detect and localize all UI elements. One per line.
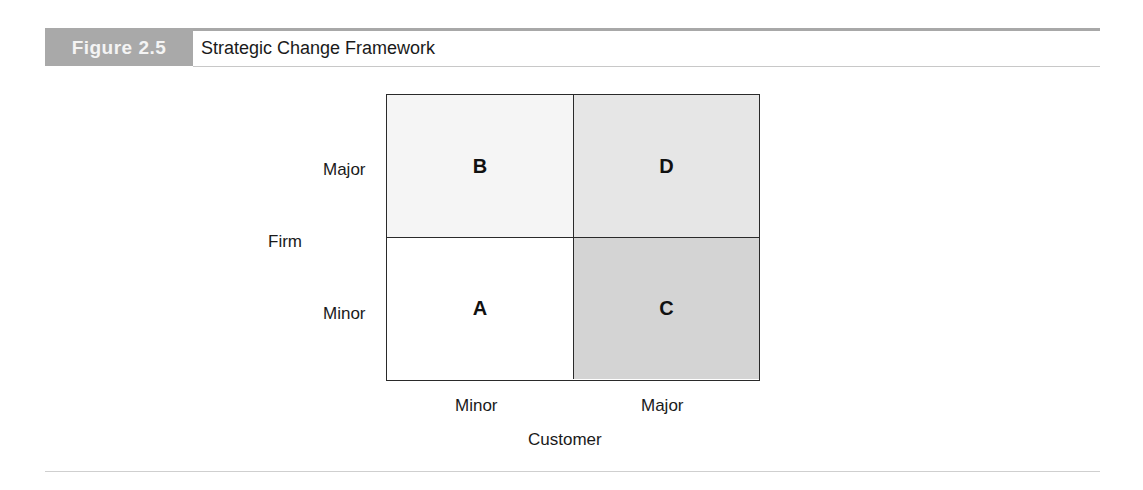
x-tick-major: Major <box>641 396 684 416</box>
quadrant-a: A <box>387 238 574 379</box>
x-axis-label: Customer <box>528 430 602 450</box>
figure-number-label: Figure 2.5 <box>45 28 193 66</box>
quadrant-b: B <box>387 95 574 238</box>
y-axis-label: Firm <box>268 232 302 252</box>
quadrant-d: D <box>574 95 759 238</box>
y-tick-minor: Minor <box>323 304 366 324</box>
x-tick-minor: Minor <box>455 396 498 416</box>
footer-rule <box>45 471 1100 472</box>
quadrant-c: C <box>574 238 759 379</box>
matrix-grid: B D A C <box>386 94 760 381</box>
y-tick-major: Major <box>323 160 366 180</box>
header-bottom-rule <box>193 66 1100 67</box>
figure-title: Strategic Change Framework <box>201 30 435 66</box>
